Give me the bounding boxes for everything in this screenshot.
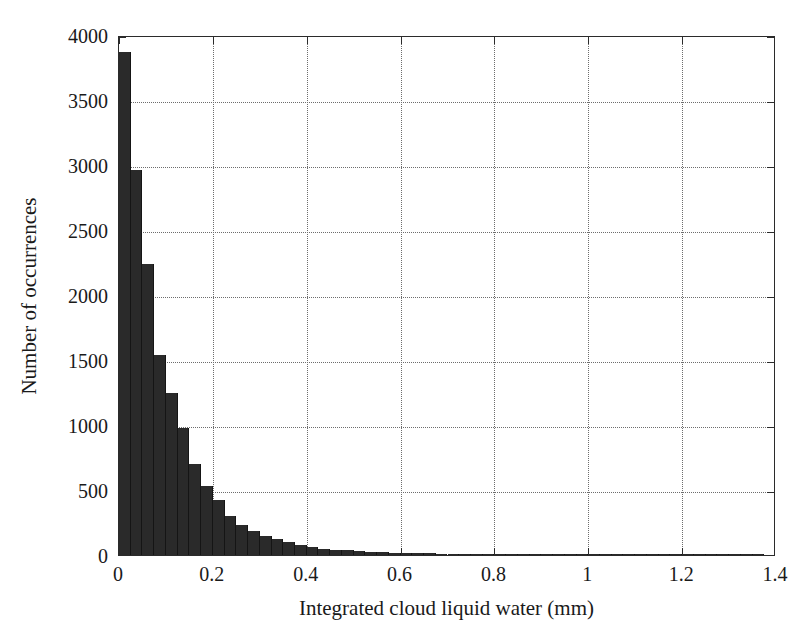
x-tick-label: 0: [113, 562, 123, 586]
histogram-bar: [142, 264, 154, 555]
histogram-bar: [612, 554, 624, 555]
histogram-bar: [741, 554, 753, 555]
y-axis-tick: [767, 37, 774, 38]
gridline-horizontal: [119, 492, 774, 493]
histogram-bar: [131, 170, 143, 555]
plot-area: [118, 36, 775, 556]
histogram-bar: [588, 554, 600, 555]
gridline-vertical: [588, 37, 589, 555]
histogram-bar: [225, 516, 237, 555]
x-tick-label: 0.8: [481, 562, 506, 586]
histogram-bar: [166, 393, 178, 556]
gridline-horizontal: [119, 102, 774, 103]
gridline-vertical: [213, 37, 214, 555]
x-axis-tick: [119, 37, 120, 44]
histogram-bar: [623, 554, 635, 555]
y-axis-tick: [119, 37, 126, 38]
x-tick-label: 1: [582, 562, 592, 586]
histogram-bar: [178, 428, 190, 555]
histogram-bar: [412, 553, 424, 555]
gridline-horizontal: [119, 297, 774, 298]
histogram-bar: [541, 554, 553, 555]
gridline-horizontal: [119, 232, 774, 233]
histogram-bar: [154, 355, 166, 555]
histogram-bar: [318, 549, 330, 556]
gridline-vertical: [682, 37, 683, 555]
histogram-bar: [236, 525, 248, 555]
histogram-bar: [295, 545, 307, 555]
histogram-bar: [330, 550, 342, 555]
x-axis-tick: [588, 37, 589, 44]
histogram-bar: [647, 554, 659, 555]
x-tick-label: 1.2: [669, 562, 694, 586]
histogram-bar: [577, 554, 589, 555]
y-axis-tick: [767, 232, 774, 233]
x-tick-label: 0.6: [387, 562, 412, 586]
histogram-figure: 05001000150020002500300035004000 00.20.4…: [0, 0, 803, 644]
gridline-vertical: [307, 37, 308, 555]
x-tick-label: 0.4: [293, 562, 318, 586]
y-axis-tick: [767, 427, 774, 428]
histogram-bar: [307, 547, 319, 555]
y-axis-tick: [767, 362, 774, 363]
gridline-horizontal: [119, 362, 774, 363]
histogram-bar: [448, 554, 460, 555]
x-axis-tick: [401, 37, 402, 44]
histogram-bar: [494, 554, 506, 555]
y-axis-tick: [767, 492, 774, 493]
histogram-bar: [248, 531, 260, 555]
histogram-bar: [694, 554, 706, 555]
x-axis-tick: [213, 37, 214, 44]
histogram-bar: [401, 553, 413, 555]
x-axis-label: Integrated cloud liquid water (mm): [118, 596, 775, 621]
histogram-bar: [389, 553, 401, 555]
histogram-bar: [189, 464, 201, 555]
histogram-bar: [260, 536, 272, 556]
histogram-bar: [635, 554, 647, 555]
histogram-bar: [706, 554, 718, 555]
histogram-bar: [506, 554, 518, 555]
histogram-bar: [377, 552, 389, 555]
histogram-bar: [600, 554, 612, 555]
histogram-bar: [753, 554, 765, 555]
x-axis-tick: [494, 37, 495, 44]
histogram-bar: [283, 542, 295, 555]
x-axis-tick: [307, 37, 308, 44]
histogram-bar: [659, 554, 671, 555]
histogram-bar: [436, 554, 448, 555]
gridline-vertical: [401, 37, 402, 555]
histogram-bar: [119, 52, 131, 555]
histogram-bar: [272, 539, 284, 555]
y-axis-tick: [767, 297, 774, 298]
histogram-bar: [670, 554, 682, 555]
histogram-bar: [201, 486, 213, 555]
histogram-bar: [459, 554, 471, 555]
histogram-bar: [729, 554, 741, 555]
histogram-bar: [213, 500, 225, 555]
gridline-horizontal: [119, 427, 774, 428]
histogram-bar: [553, 554, 565, 555]
y-axis-tick: [767, 167, 774, 168]
histogram-bar: [471, 554, 483, 555]
x-tick-label: 0.2: [199, 562, 224, 586]
gridline-horizontal: [119, 167, 774, 168]
histogram-bar: [365, 552, 377, 555]
gridline-vertical: [494, 37, 495, 555]
y-axis-label: Number of occurrences: [14, 36, 44, 556]
histogram-bar: [342, 550, 354, 555]
histogram-bar: [354, 551, 366, 555]
histogram-bar: [518, 554, 530, 555]
histogram-bar: [682, 554, 694, 555]
histogram-bar: [530, 554, 542, 555]
histogram-bar: [424, 553, 436, 555]
histogram-bar: [565, 554, 577, 555]
x-axis-tick: [682, 37, 683, 44]
x-tick-label: 1.4: [763, 562, 788, 586]
y-axis-tick: [767, 102, 774, 103]
histogram-bar: [483, 554, 495, 555]
histogram-bar: [717, 554, 729, 555]
